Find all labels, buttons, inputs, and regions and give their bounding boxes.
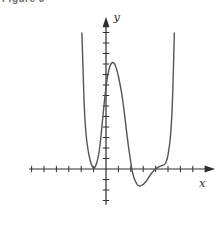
x-axis-label: x [199,176,206,190]
x-axis-arrow-icon [205,166,216,173]
figure-panel: Figure 3 xy [0,0,222,230]
y-axis-arrow-icon [103,17,110,28]
function-curve [82,33,174,186]
function-graph: xy [0,0,222,230]
y-axis-label: y [113,10,121,24]
